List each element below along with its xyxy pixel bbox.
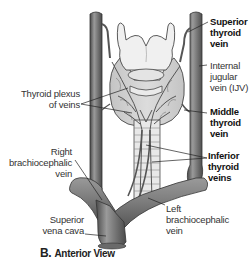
caption-text: Anterior View [54,248,114,259]
label-thyroid-plexus-of-veins: Thyroid plexus of veins [14,88,80,110]
label-left-brachiocephalic-vein: Left brachiocephalic vein [166,203,229,236]
label-right-brachiocephalic-vein: Right brachiocephalic vein [4,146,72,179]
caption-letter: B. [40,246,51,260]
label-superior-thyroid-vein: Superior thyroid vein [210,16,247,49]
trachea [134,120,160,200]
label-middle-thyroid-vein: Middle thyroid vein [210,106,241,139]
figure-caption: B. Anterior View [40,246,115,260]
thyroid-cartilage [117,23,174,70]
label-internal-jugular-vein: Internal jugular vein (IJV) [210,60,248,93]
label-inferior-thyroid-veins: Inferior thyroid veins [208,150,239,183]
label-superior-vena-cava: Superior vena cava [30,214,84,236]
right-internal-jugular-vein [90,12,102,190]
